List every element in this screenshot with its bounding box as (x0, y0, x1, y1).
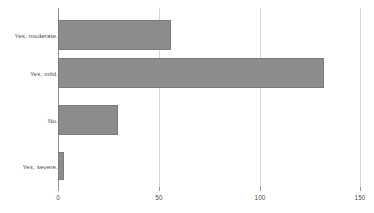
category-label-yes-moderate: Yes, moderate. (15, 32, 59, 39)
tick-label-100: 100 (250, 194, 270, 201)
tick-mark-100 (260, 187, 261, 191)
tick-label-0: 0 (48, 194, 68, 201)
tick-mark-150 (360, 187, 361, 191)
tick-label-50: 50 (149, 194, 169, 201)
gridline-100 (260, 8, 261, 187)
gridline-150 (360, 8, 361, 187)
bar-yes-moderate[interactable] (58, 20, 171, 50)
bar-no[interactable] (58, 105, 118, 135)
bar-yes-severe[interactable] (58, 152, 64, 180)
bar-yes-mild[interactable] (58, 58, 324, 88)
category-label-no: No. (48, 117, 58, 124)
tick-mark-0 (58, 187, 59, 191)
category-label-yes-mild: Yes, mild. (30, 70, 58, 77)
category-label-yes-severe: Yes, severe. (22, 163, 58, 170)
tick-label-150: 150 (350, 194, 370, 201)
tick-mark-50 (159, 187, 160, 191)
bar-chart: Yes, moderate. Yes, mild. No. Yes, sever… (0, 0, 374, 213)
